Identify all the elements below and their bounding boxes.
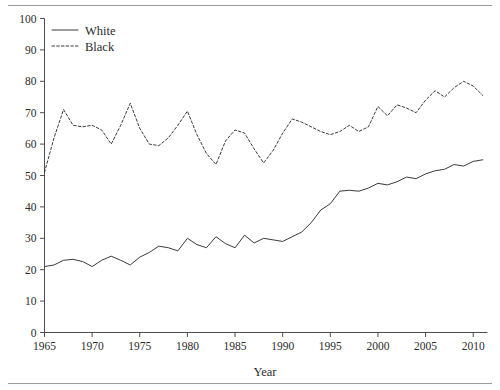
bottom-horizontal-rule <box>8 383 492 384</box>
x-tick-label: 2010 <box>462 340 485 352</box>
y-tick-label: 60 <box>25 138 37 150</box>
x-tick-label: 1990 <box>271 340 294 352</box>
y-tick-label: 100 <box>19 13 37 25</box>
series-line-black <box>45 81 483 172</box>
x-tick-label: 1995 <box>319 340 342 352</box>
x-tick-label: 1965 <box>33 340 56 352</box>
line-chart: 0102030405060708090100 19651970197519801… <box>0 0 500 390</box>
legend-label-white: White <box>85 24 116 38</box>
figure-container: 0102030405060708090100 19651970197519801… <box>0 0 500 390</box>
x-tick-label: 1985 <box>224 340 247 352</box>
x-tick-label: 2000 <box>366 340 389 352</box>
y-tick-label: 90 <box>25 44 37 56</box>
y-tick-label: 30 <box>25 232 37 244</box>
y-tick-label: 20 <box>25 264 37 276</box>
x-tick-label: 1980 <box>176 340 199 352</box>
legend-label-black: Black <box>85 40 115 54</box>
y-tick-label: 40 <box>25 201 37 213</box>
axis-lines <box>40 19 488 338</box>
data-series-group <box>45 81 483 266</box>
y-tick-label: 0 <box>31 327 37 339</box>
y-tick-label: 70 <box>25 107 37 119</box>
x-tick-label: 1970 <box>81 340 104 352</box>
y-tick-label: 10 <box>25 295 37 307</box>
chart-legend: WhiteBlack <box>52 24 116 54</box>
series-line-white <box>45 160 483 267</box>
x-tick-label: 1975 <box>128 340 151 352</box>
x-axis-tick-labels: 1965197019751980198519901995200020052010 <box>33 340 485 352</box>
x-axis-title: Year <box>253 365 277 379</box>
x-tick-label: 2005 <box>414 340 437 352</box>
y-tick-label: 50 <box>25 170 37 182</box>
y-tick-label: 80 <box>25 75 37 87</box>
y-axis-tick-labels: 0102030405060708090100 <box>19 13 37 339</box>
